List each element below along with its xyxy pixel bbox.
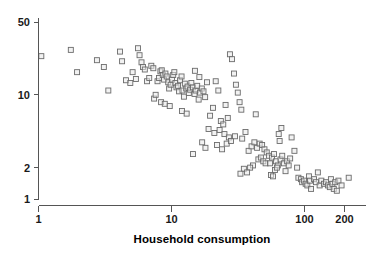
data-point [208,113,213,118]
data-point [272,152,277,157]
data-point [289,135,294,140]
data-point [252,140,257,145]
data-point [221,122,226,127]
data-point [235,90,240,95]
data-point [120,59,125,64]
data-point [106,88,111,93]
data-point [279,126,284,131]
data-point [137,53,142,58]
data-point [136,46,141,51]
data-point [229,57,234,62]
x-axis-ticks: 110100200 [35,206,353,226]
data-point [239,107,244,112]
data-point [346,175,351,180]
data-point [179,74,184,79]
data-point [196,97,201,102]
data-point [223,102,228,107]
data-point [248,165,253,170]
data-points-group [39,46,351,194]
x-axis-title: Household consumption [134,233,271,245]
data-point [288,156,293,161]
data-point [283,169,288,174]
data-point [225,115,230,120]
data-point [233,82,238,87]
data-point [271,174,276,179]
x-tick-label: 1 [35,213,41,225]
data-point [277,139,282,144]
data-point [203,95,208,100]
data-point [68,47,73,52]
data-point [75,70,80,75]
data-point [336,178,341,183]
data-point [39,54,44,59]
data-point [237,100,242,105]
data-point [267,161,272,166]
data-point [164,74,169,79]
data-point [205,80,210,85]
data-point [280,153,285,158]
data-point [309,186,314,191]
data-point [192,68,197,73]
data-point [245,170,250,175]
data-point [197,75,202,80]
data-point [118,49,123,54]
data-point [243,129,248,134]
y-tick-label: 1 [24,193,30,205]
y-axis-ticks: 121050 [18,16,39,205]
data-point [253,112,258,117]
y-tick-label: 50 [18,16,30,28]
data-point [190,152,195,157]
x-tick-label: 10 [165,213,177,225]
data-point [151,66,156,71]
data-point [213,79,218,84]
data-point [220,147,225,152]
x-tick-label: 100 [295,213,313,225]
data-point [201,89,206,94]
chart-figure: 121050 110100200 Household consumption [0,0,371,253]
data-point [339,183,344,188]
data-point [162,101,167,106]
data-point [216,88,221,93]
data-point [210,105,215,110]
data-point [240,136,245,141]
x-tick-label: 200 [335,213,353,225]
data-point [238,171,243,176]
data-point [130,70,135,75]
data-point [217,127,222,132]
y-tick-label: 2 [24,162,30,174]
data-point [228,139,233,144]
y-tick-label: 10 [18,89,30,101]
data-point [203,145,208,150]
data-point [172,70,177,75]
data-point [128,80,133,85]
data-point [231,71,236,76]
data-point [94,58,99,63]
data-point [212,131,217,136]
data-point [101,64,106,69]
data-point [206,126,211,131]
data-point [215,142,220,147]
data-point [147,76,152,81]
data-point [295,165,300,170]
data-point [276,132,281,137]
data-point [232,134,237,139]
data-point [274,165,279,170]
data-point [292,148,297,153]
data-point [200,140,205,145]
data-point [315,170,320,175]
data-point [227,52,232,57]
data-point [153,92,158,97]
data-point [181,94,186,99]
data-point [142,67,147,72]
data-point [286,163,291,168]
data-point [184,111,189,116]
scatter-plot-svg: 121050 110100200 Household consumption [0,0,371,253]
data-point [334,188,339,193]
data-point [167,104,172,109]
data-point [133,76,138,81]
data-point [168,82,173,87]
